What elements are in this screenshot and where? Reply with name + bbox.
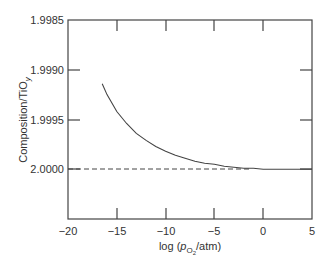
x-tick-label: −5 <box>208 225 221 237</box>
x-tick-label: −20 <box>59 225 78 237</box>
x-tick-label: −10 <box>157 225 176 237</box>
bottom-ticks <box>117 208 263 219</box>
x-axis-label: log (pO2/atm) <box>159 240 221 256</box>
y-tick-label: 1.9995 <box>30 114 64 126</box>
x-tick-label: −15 <box>108 225 127 237</box>
y-tick-label: 1.9990 <box>30 64 64 76</box>
x-tick-label: 5 <box>309 225 315 237</box>
right-ticks <box>300 70 312 169</box>
left-ticks <box>68 70 80 169</box>
chart: 1.9985 1.9990 1.9995 2.0000 −20 −15 −10 … <box>0 0 328 262</box>
y-tick-label: 2.0000 <box>30 163 64 175</box>
y-tick-label: 1.9985 <box>30 14 64 26</box>
x-tick-label: 0 <box>260 225 266 237</box>
top-ticks <box>117 20 263 31</box>
plot-frame <box>68 20 312 219</box>
composition-curve <box>102 84 312 170</box>
